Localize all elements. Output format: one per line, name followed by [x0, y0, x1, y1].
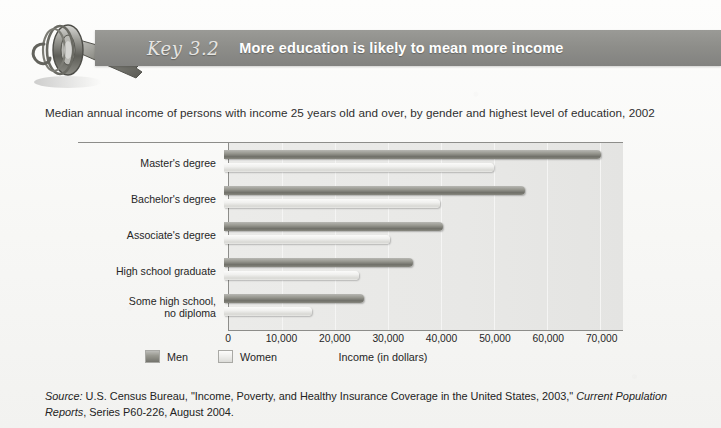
- bar-men: [224, 150, 601, 159]
- x-axis-title: Income (in dollars): [45, 351, 721, 363]
- category-label: High school graduate: [78, 265, 224, 277]
- bar-men: [224, 294, 364, 303]
- bar-women: [224, 163, 494, 172]
- x-tick-label: 40,000: [426, 333, 458, 344]
- bar-women: [224, 235, 390, 244]
- chart-row: Master's degree: [78, 148, 623, 178]
- category-label: Bachelor's degree: [78, 193, 224, 205]
- figure-banner: Key 3.2 More education is likely to mean…: [95, 30, 721, 66]
- x-axis-line: [228, 330, 623, 331]
- figure-title: More education is likely to mean more in…: [239, 40, 563, 56]
- bar-group: [224, 184, 623, 214]
- bar-group: [224, 148, 623, 178]
- key-number-label: Key 3.2: [147, 38, 219, 59]
- chart-row: High school graduate: [78, 256, 623, 286]
- source-note: Source: U.S. Census Bureau, "Income, Pov…: [45, 388, 700, 420]
- x-axis-ticks: 010,00020,00030,00040,00050,00060,00070,…: [78, 333, 678, 347]
- chart-rows: Master's degreeBachelor's degreeAssociat…: [78, 143, 623, 331]
- x-tick-label: 60,000: [533, 333, 565, 344]
- bar-men: [224, 222, 443, 231]
- bar-group: [224, 256, 623, 286]
- chart-row: Bachelor's degree: [78, 184, 623, 214]
- source-line1: U.S. Census Bureau, "Income, Poverty, an…: [83, 390, 577, 402]
- x-tick-label: 10,000: [266, 333, 298, 344]
- x-tick-label: 0: [225, 333, 231, 344]
- bar-women: [224, 199, 440, 208]
- bar-men: [224, 186, 525, 195]
- chart-row: Associate's degree: [78, 220, 623, 250]
- chart-area: Master's degreeBachelor's degreeAssociat…: [78, 142, 623, 331]
- figure-page: Key 3.2 More education is likely to mean…: [0, 0, 721, 428]
- category-label: Associate's degree: [78, 229, 224, 241]
- bar-women: [224, 307, 312, 316]
- figure-subtitle: Median annual income of persons with inc…: [45, 106, 705, 119]
- x-tick-label: 30,000: [372, 333, 404, 344]
- source-line1-italic: Current: [576, 390, 612, 402]
- x-tick-label: 20,000: [319, 333, 351, 344]
- source-label: Source:: [45, 390, 83, 402]
- bar-women: [224, 271, 359, 280]
- chart-row: Some high school,no diploma: [78, 292, 623, 322]
- bar-group: [224, 292, 623, 322]
- category-label: Some high school,no diploma: [78, 295, 224, 319]
- x-tick-label: 50,000: [479, 333, 511, 344]
- bar-group: [224, 220, 623, 250]
- source-line2: , Series P60-226, August 2004.: [83, 406, 234, 418]
- bar-men: [224, 258, 413, 267]
- x-tick-label: 70,000: [586, 333, 618, 344]
- category-label: Master's degree: [78, 157, 224, 169]
